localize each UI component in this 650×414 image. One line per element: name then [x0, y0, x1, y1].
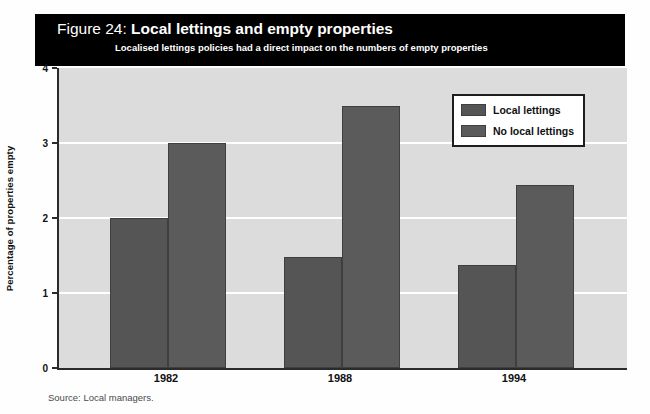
legend-label-no-local-lettings: No local lettings: [493, 125, 574, 137]
figure-title-text: Local lettings and empty properties: [131, 20, 393, 37]
bar-1994-no-local-lettings: [516, 185, 574, 368]
bar-1982-no-local-lettings: [168, 143, 226, 368]
bar-1988-no-local-lettings: [342, 106, 400, 368]
figure-subtitle: Localised lettings policies had a direct…: [115, 41, 625, 54]
y-tick-label-1: 1: [42, 288, 48, 299]
x-tick-label-1994: 1994: [502, 372, 526, 384]
figure-title: Figure 24: Local lettings and empty prop…: [57, 19, 625, 39]
legend-item-local-lettings: Local lettings: [461, 101, 574, 119]
legend-swatch-icon-local-lettings: [461, 104, 486, 116]
bar-1982-local-lettings: [110, 218, 168, 368]
source-note: Source: Local managers.: [48, 392, 154, 403]
y-tick-label-3: 3: [42, 138, 48, 149]
y-tick-label-0: 0: [42, 363, 48, 374]
bar-1994-local-lettings: [458, 265, 516, 368]
legend-item-no-local-lettings: No local lettings: [461, 122, 574, 140]
y-tick-label-2: 2: [42, 213, 48, 224]
title-banner: Figure 24: Local lettings and empty prop…: [35, 14, 625, 66]
x-axis: 1982 1988 1994: [57, 372, 625, 390]
legend-label-local-lettings: Local lettings: [493, 104, 561, 116]
x-tick-label-1982: 1982: [154, 372, 178, 384]
figure-container: Figure 24: Local lettings and empty prop…: [0, 0, 650, 414]
legend-swatch-icon-no-local-lettings: [461, 125, 486, 137]
x-tick-label-1988: 1988: [328, 372, 352, 384]
figure-number: Figure 24:: [57, 20, 131, 37]
y-tick-label-4: 4: [42, 63, 48, 74]
legend: Local lettings No local lettings: [452, 94, 585, 147]
y-axis: 0 1 2 3 4: [0, 68, 57, 368]
bar-1988-local-lettings: [284, 257, 342, 368]
